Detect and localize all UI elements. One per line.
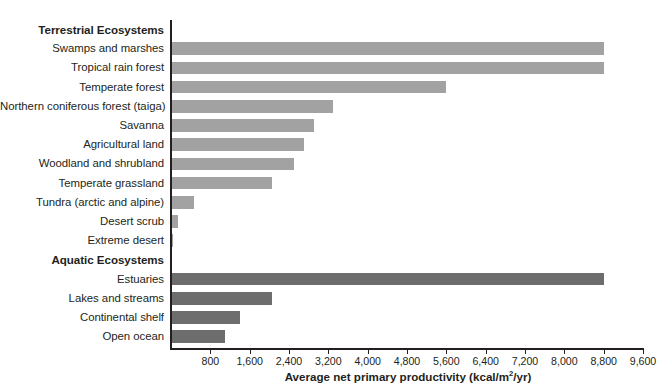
x-tick-mark: [250, 350, 251, 354]
bar: [171, 119, 314, 132]
bar: [171, 62, 604, 75]
x-tick-mark: [525, 350, 526, 354]
chart-group-header-row: Terrestrial Ecosystems: [0, 20, 657, 39]
x-tick-label: 7,200: [512, 355, 539, 367]
x-tick-mark: [604, 350, 605, 354]
bar-chart-figure: Terrestrial EcosystemsSwamps and marshes…: [0, 0, 657, 391]
chart-bar-row: Woodland and shrubland: [0, 154, 657, 173]
x-tick-mark: [210, 350, 211, 354]
x-tick-mark: [407, 350, 408, 354]
x-tick-label: 1,600: [236, 355, 263, 367]
x-tick-label: 8,800: [590, 355, 617, 367]
category-label: Desert scrub: [0, 212, 164, 231]
bar: [171, 215, 178, 228]
x-tick-mark: [486, 350, 487, 354]
x-tick-label: 4,800: [394, 355, 421, 367]
bar: [171, 292, 272, 305]
category-label: Extreme desert: [0, 231, 164, 250]
category-label: Tundra (arctic and alpine): [0, 193, 164, 212]
bar: [171, 273, 604, 286]
chart-bar-row: Tundra (arctic and alpine): [0, 193, 657, 212]
bar: [171, 311, 240, 324]
group-label: Terrestrial Ecosystems: [0, 20, 164, 39]
chart-bar-row: Lakes and streams: [0, 289, 657, 308]
category-label: Open ocean: [0, 327, 164, 346]
chart-bar-row: Tropical rain forest: [0, 58, 657, 77]
x-axis-title: Average net primary productivity (kcal/m…: [171, 370, 645, 383]
chart-bar-row: Northern coniferous forest (taiga): [0, 97, 657, 116]
chart-bar-row: Continental shelf: [0, 308, 657, 327]
chart-bar-row: Estuaries: [0, 270, 657, 289]
group-label: Aquatic Ecosystems: [0, 250, 164, 269]
y-axis-line: [170, 20, 172, 349]
chart-bar-row: Desert scrub: [0, 212, 657, 231]
category-label: Estuaries: [0, 270, 164, 289]
category-label: Temperate forest: [0, 78, 164, 97]
x-tick-mark: [289, 350, 290, 354]
chart-bar-row: Open ocean: [0, 327, 657, 346]
bar: [171, 196, 194, 209]
category-label: Swamps and marshes: [0, 39, 164, 58]
chart-bar-row: Agricultural land: [0, 135, 657, 154]
x-tick-mark: [564, 350, 565, 354]
bar: [171, 81, 446, 94]
x-tick-label: 5,600: [433, 355, 460, 367]
chart-bar-row: Swamps and marshes: [0, 39, 657, 58]
bar: [171, 330, 225, 343]
x-tick-label: 800: [201, 355, 219, 367]
category-label: Continental shelf: [0, 308, 164, 327]
category-label: Woodland and shrubland: [0, 154, 164, 173]
bar: [171, 158, 294, 171]
x-tick-mark: [446, 350, 447, 354]
x-tick-mark: [368, 350, 369, 354]
category-label: Temperate grassland: [0, 174, 164, 193]
x-tick-mark: [328, 350, 329, 354]
chart-group-header-row: Aquatic Ecosystems: [0, 250, 657, 269]
chart-bar-row: Temperate forest: [0, 78, 657, 97]
bar: [171, 42, 604, 55]
x-tick-label: 3,200: [315, 355, 342, 367]
bar: [171, 177, 272, 190]
chart-bar-row: Savanna: [0, 116, 657, 135]
x-tick-label: 4,000: [354, 355, 381, 367]
category-label: Savanna: [0, 116, 164, 135]
x-tick-label: 2,400: [276, 355, 303, 367]
chart-bar-row: Extreme desert: [0, 231, 657, 250]
category-label: Agricultural land: [0, 135, 164, 154]
category-label: Northern coniferous forest (taiga): [0, 97, 164, 116]
chart-bar-row: Temperate grassland: [0, 174, 657, 193]
x-tick-label: 9,600: [630, 355, 657, 367]
x-tick-label: 8,000: [551, 355, 578, 367]
x-axis-title-superscript: 2: [509, 369, 513, 378]
x-tick-label: 6,400: [472, 355, 499, 367]
x-tick-mark: [643, 350, 644, 354]
category-label: Lakes and streams: [0, 289, 164, 308]
bar: [171, 100, 333, 113]
category-label: Tropical rain forest: [0, 58, 164, 77]
bar: [171, 138, 304, 151]
